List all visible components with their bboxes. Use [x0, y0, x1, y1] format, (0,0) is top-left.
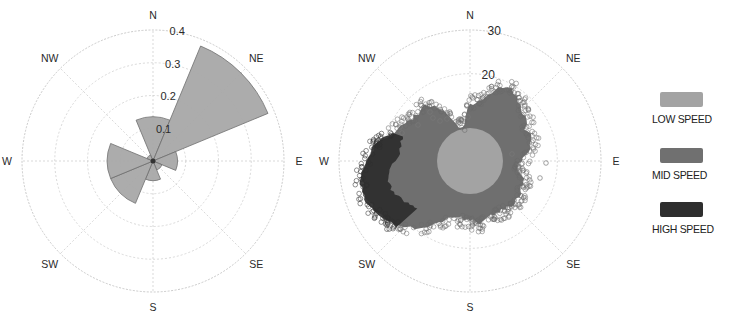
scatter-point — [523, 96, 528, 101]
wind-scatter-chart: NNEESESSWWNW2030 — [319, 9, 619, 313]
legend-swatch-high — [660, 202, 703, 217]
radial-tick-label: 0.3 — [165, 58, 180, 70]
compass-label-w: W — [319, 155, 329, 167]
radial-tick-label: 0.4 — [170, 25, 185, 37]
scatter-point — [370, 210, 375, 215]
scatter-point — [467, 98, 472, 103]
legend-label-mid: MID SPEED — [652, 169, 707, 181]
compass-label-sw: SW — [358, 258, 375, 270]
scatter-point — [538, 176, 543, 181]
radial-tick-label: 0.2 — [160, 90, 175, 102]
compass-label-ne: NE — [249, 52, 264, 64]
scatter-point — [386, 126, 391, 131]
compass-label-e: E — [295, 155, 302, 167]
scatter-point — [530, 153, 535, 158]
legend-swatch-mid — [660, 148, 703, 163]
compass-label-nw: NW — [358, 52, 376, 64]
compass-label-nw: NW — [41, 52, 59, 64]
figure: NNEESESSWWNW0.10.20.30.4 NNEESESSWWNW203… — [0, 0, 734, 323]
scatter-point — [395, 117, 400, 122]
compass-label-n: N — [149, 9, 157, 21]
compass-label-ne: NE — [566, 52, 581, 64]
radial-tick-label: 30 — [488, 24, 502, 38]
low-speed-disc — [437, 128, 503, 194]
legend-label-low: LOW SPEED — [652, 113, 712, 125]
scatter-point — [447, 218, 452, 223]
compass-label-se: SE — [249, 258, 263, 270]
compass-label-s: S — [149, 301, 156, 313]
scatter-point — [358, 201, 363, 206]
scatter-point — [527, 174, 532, 179]
scatter-point — [509, 79, 514, 84]
radial-tick-label: 20 — [481, 68, 495, 82]
compass-label-w: W — [2, 155, 12, 167]
scatter-point — [494, 85, 499, 90]
compass-label-e: E — [612, 155, 619, 167]
scatter-point — [357, 173, 362, 178]
radial-tick-label: 0.1 — [156, 123, 171, 135]
compass-label-s: S — [466, 301, 473, 313]
scatter-point — [363, 156, 368, 161]
compass-label-sw: SW — [41, 258, 58, 270]
legend-swatch-low — [660, 92, 703, 107]
legend-label-high: HIGH SPEED — [652, 223, 714, 235]
scatter-point — [354, 168, 359, 173]
scatter-point — [359, 161, 364, 166]
grid-spoke — [153, 161, 246, 254]
center-marker — [151, 159, 156, 164]
scatter-point — [357, 191, 362, 196]
compass-label-se: SE — [566, 258, 580, 270]
wind-rose-chart: NNEESESSWWNW0.10.20.30.4 — [2, 9, 302, 313]
scatter-point — [364, 148, 369, 153]
scatter-point — [442, 107, 447, 112]
compass-label-n: N — [466, 9, 474, 21]
scatter-point — [531, 115, 536, 120]
